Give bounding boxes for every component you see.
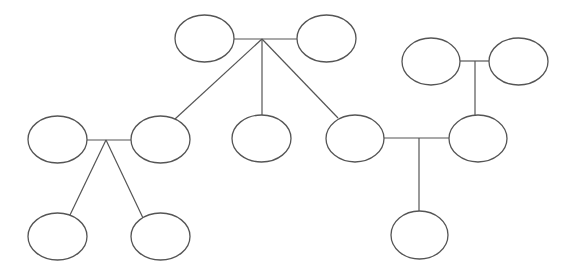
node-grandchild-2 xyxy=(131,213,190,260)
node-child-b1 xyxy=(449,115,507,162)
node-spouse-left xyxy=(28,116,87,163)
node-gp-b1 xyxy=(402,38,460,85)
node-grandchild-3 xyxy=(391,211,448,259)
node-gp-a1 xyxy=(175,15,234,62)
person-nodes xyxy=(28,15,548,260)
node-child-a3 xyxy=(326,115,384,162)
node-child-a2 xyxy=(232,115,291,162)
node-child-a1 xyxy=(131,116,190,163)
node-gp-b2 xyxy=(489,38,548,85)
family-tree-diagram xyxy=(0,0,573,274)
node-grandchild-1 xyxy=(28,213,87,260)
node-gp-a2 xyxy=(297,15,356,62)
